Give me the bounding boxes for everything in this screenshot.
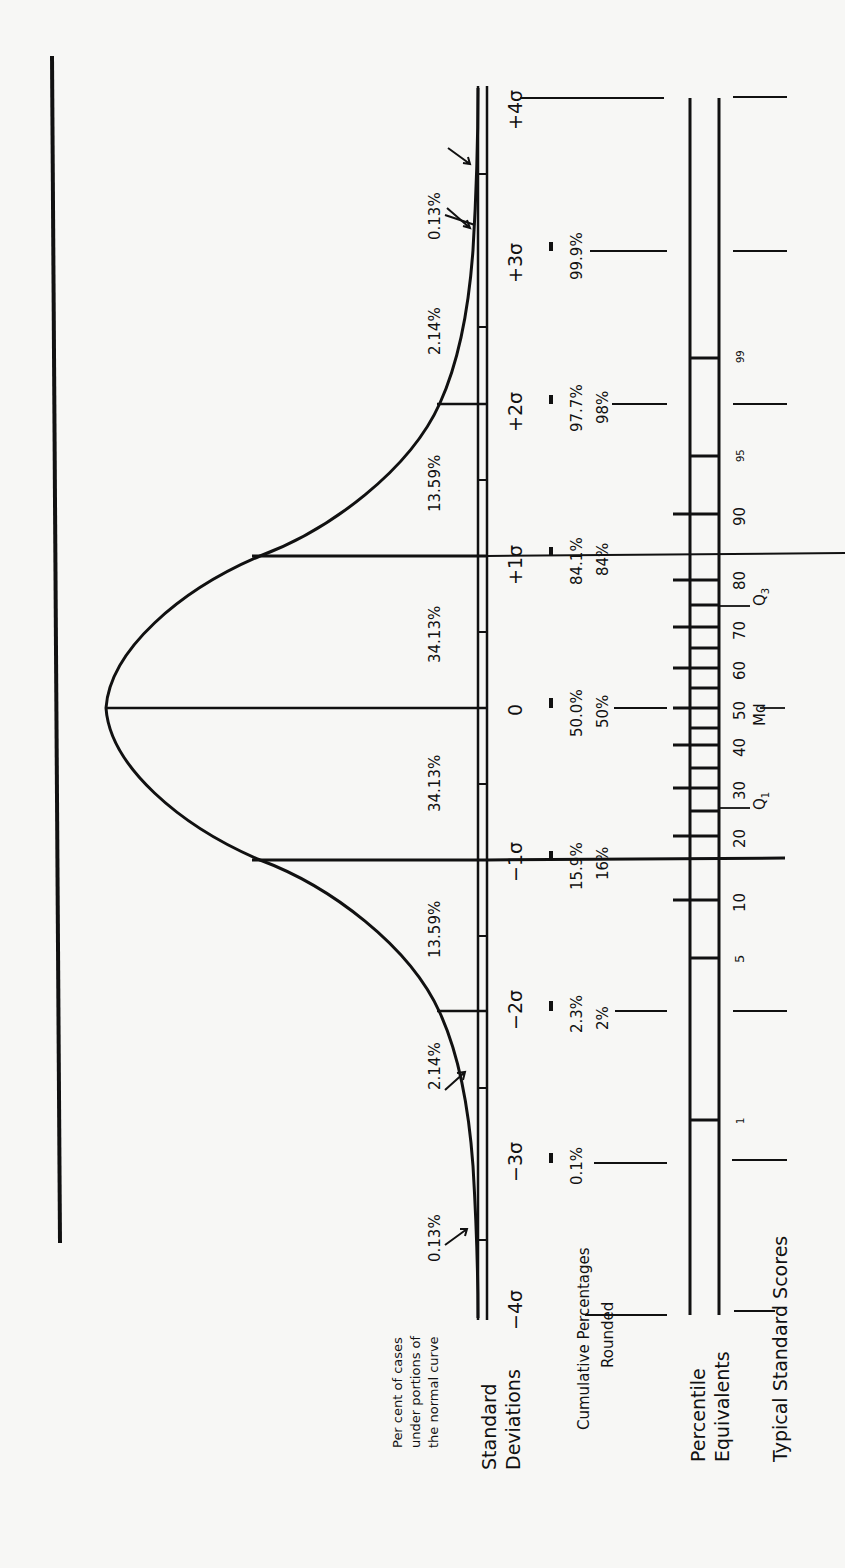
arrow-icon	[447, 208, 470, 228]
percentile-label: 50	[731, 701, 749, 720]
cumulative-label: 15.9%	[568, 842, 586, 890]
q3-label: Q3	[751, 588, 771, 606]
cumulative-label: 50.0%	[568, 689, 586, 737]
segment-label: 13.59%	[426, 901, 444, 958]
rounded-label: 50%	[594, 695, 612, 728]
rounded-labels: 2% 16% 50% 84% 98%	[594, 391, 612, 1030]
sigma-label: +4σ	[504, 90, 526, 130]
typical-scores-title: Typical Standard Scores	[769, 1236, 791, 1463]
cumulative-title: Cumulative Percentages	[575, 1247, 593, 1430]
cumulative-label: 0.1%	[568, 1147, 586, 1185]
segment-label: 13.59%	[426, 455, 444, 512]
percentile-label: 20	[731, 829, 749, 848]
row-titles: Per cent of cases under portions of the …	[390, 1236, 791, 1470]
percentile-label: 1	[735, 1118, 746, 1124]
cumulative-labels: 0.1% 2.3% 15.9% 50.0% 84.1% 97.7% 99.9%	[568, 232, 586, 1185]
sigma-label: +3σ	[504, 243, 526, 283]
rounded-label: 2%	[594, 1006, 612, 1030]
segment-labels: 0.13% 2.14% 13.59% 34.13% 34.13% 13.59% …	[426, 192, 444, 1262]
sigma-label: +2σ	[504, 392, 526, 432]
rounded-label: 98%	[594, 391, 612, 424]
arrow-icon	[445, 215, 475, 225]
cumulative-label: 84.1%	[568, 537, 586, 585]
sigma-label: −3σ	[504, 1142, 526, 1182]
per-cent-title: Per cent of cases	[390, 1337, 405, 1448]
rounded-label: 84%	[594, 543, 612, 576]
percentile-title: Equivalents	[711, 1351, 733, 1462]
percentile-label: 5	[732, 955, 747, 963]
sigma-label: 0	[504, 704, 526, 716]
normal-curve-diagram: 0.13% 2.14% 13.59% 34.13% 34.13% 13.59% …	[0, 0, 845, 1568]
percentile-rungs	[673, 358, 719, 1120]
cumulative-label: 2.3%	[568, 995, 586, 1033]
sigma-label: −4σ	[504, 1290, 526, 1330]
cumulative-label: 97.7%	[568, 384, 586, 432]
left-border-line	[52, 56, 60, 1243]
std-dev-title: Standard	[478, 1384, 500, 1470]
segment-label: 2.14%	[426, 307, 444, 355]
minus1-crossline	[487, 858, 785, 860]
std-dev-title: Deviations	[502, 1369, 524, 1470]
percentile-label: 80	[731, 571, 749, 590]
rounded-title: Rounded	[599, 1302, 617, 1368]
percentile-label: 10	[731, 893, 749, 912]
per-cent-title: under portions of	[408, 1335, 423, 1448]
percentile-label: 40	[731, 738, 749, 757]
plus1-crossline	[487, 553, 845, 556]
quartile-labels: Q1 Md Q3	[751, 588, 771, 810]
segment-label: 34.13%	[426, 755, 444, 812]
percentile-label: 60	[731, 661, 749, 680]
arrow-icon	[448, 148, 470, 164]
percentile-labels: 1 5 10 20 30 40 50 60 70 80 90 95 99	[731, 350, 749, 1124]
per-cent-title: the normal curve	[426, 1336, 441, 1448]
percentile-title: Percentile	[687, 1368, 709, 1462]
segment-label: 34.13%	[426, 606, 444, 663]
percentile-label: 95	[735, 449, 746, 462]
segment-label: 2.14%	[426, 1042, 444, 1090]
sigma-label: −1σ	[504, 842, 526, 882]
arrow-icon	[445, 1229, 467, 1245]
percentile-label: 99	[735, 350, 746, 363]
sigma-label: −2σ	[504, 990, 526, 1030]
normal-curve	[106, 88, 478, 1318]
percentile-label: 70	[731, 621, 749, 640]
percentile-label: 30	[731, 781, 749, 800]
sigma-labels: −4σ −3σ −2σ −1σ 0 +1σ +2σ +3σ +4σ	[504, 90, 526, 1330]
q1-label: Q1	[751, 792, 771, 810]
cumulative-label: 99.9%	[568, 232, 586, 280]
sigma-label: +1σ	[504, 545, 526, 585]
percentile-label: 90	[731, 507, 749, 526]
rounded-label: 16%	[594, 847, 612, 880]
segment-label: 0.13%	[426, 192, 444, 240]
median-label: Md	[751, 704, 769, 726]
segment-label: 0.13%	[426, 1214, 444, 1262]
